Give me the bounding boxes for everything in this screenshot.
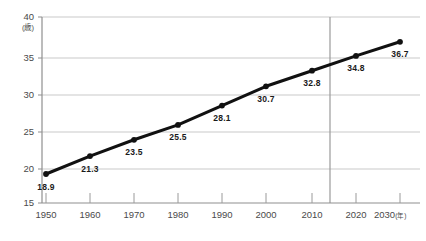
y-tick-label-20: 20 — [12, 163, 34, 174]
y-tick-label-25: 25 — [12, 126, 34, 137]
x-tick-label-2010: 2010 — [289, 209, 335, 220]
point-label-1950: 18.9 — [29, 182, 63, 192]
x-tick-label-2020: 2020 — [333, 209, 379, 220]
gridlines-horizontal — [42, 17, 420, 169]
point-label-2010: 32.8 — [295, 78, 329, 88]
x-tick-label-2030-value: 2030 — [374, 209, 395, 220]
x-axis-unit-label: (年) — [395, 212, 406, 219]
x-tick-label-1950: 1950 — [23, 209, 69, 220]
point-label-1960: 21.3 — [73, 164, 107, 174]
point-label-2000: 30.7 — [249, 94, 283, 104]
x-tick-label-1980: 1980 — [155, 209, 201, 220]
x-tick-label-1990: 1990 — [199, 209, 245, 220]
x-tick-marks — [46, 193, 400, 203]
x-tick-label-1960: 1960 — [67, 209, 113, 220]
x-tick-label-2030: 2030(年) — [374, 209, 420, 220]
point-label-1980: 25.5 — [161, 132, 195, 142]
x-tick-label-2000: 2000 — [243, 209, 289, 220]
point-label-1970: 23.5 — [117, 147, 151, 157]
x-tick-label-1970: 1970 — [111, 209, 157, 220]
point-label-2030: 36.7 — [383, 49, 417, 59]
y-axis-unit-label: (歳) — [12, 21, 34, 32]
point-label-1990: 28.1 — [205, 113, 239, 123]
y-tick-label-15: 15 — [12, 197, 34, 208]
y-tick-label-30: 30 — [12, 89, 34, 100]
chart-container: 40 (歳) 35 30 25 20 15 1950 1960 1970 198… — [0, 0, 426, 241]
y-tick-label-35: 35 — [12, 52, 34, 63]
point-label-2020: 34.8 — [339, 63, 373, 73]
